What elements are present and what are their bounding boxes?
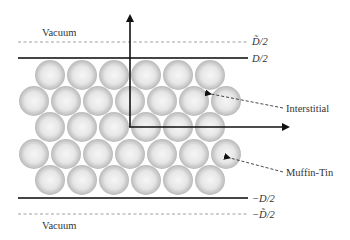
muffin-tin-sphere — [179, 86, 209, 116]
muffin-tin-sphere — [51, 86, 81, 116]
vacuum-label-bottom: Vacuum — [42, 220, 76, 231]
interstitial-label: Interstitial — [286, 103, 329, 114]
muffin-tin-sphere — [99, 165, 129, 195]
muffin-tin-sphere — [163, 60, 193, 90]
d-half-bottom-label: −D/2 — [252, 193, 276, 204]
muffin-tin-sphere — [99, 112, 129, 142]
muffin-tin-sphere — [115, 139, 145, 169]
muffin-tin-sphere — [19, 86, 49, 116]
muffin-tin-sphere — [67, 165, 97, 195]
muffin-tin-sphere — [131, 60, 161, 90]
muffin-tin-sphere — [131, 165, 161, 195]
muffin-tin-sphere — [163, 165, 193, 195]
d-tilde-half-top-label: D̃/2 — [251, 35, 269, 47]
muffin-tin-sphere — [83, 86, 113, 116]
muffin-tin-sphere — [35, 112, 65, 142]
muffin-tin-sphere — [195, 165, 225, 195]
muffin-tin-sphere — [19, 139, 49, 169]
muffin-tin-pointer — [230, 158, 283, 172]
muffin-tin-sphere — [67, 112, 97, 142]
muffin-tin-sphere — [147, 86, 177, 116]
muffin-tin-sphere — [179, 139, 209, 169]
muffin-tin-sphere — [195, 60, 225, 90]
muffin-tin-sphere — [35, 165, 65, 195]
muffin-tin-sphere — [67, 60, 97, 90]
muffin-tin-sphere — [35, 60, 65, 90]
muffin-tin-sphere — [211, 139, 241, 169]
muffin-tin-sphere — [211, 86, 241, 116]
d-half-top-label: D/2 — [251, 53, 269, 64]
muffin-tin-sphere — [83, 139, 113, 169]
d-tilde-half-bottom-label: −D̃/2 — [252, 208, 276, 220]
muffin-tin-sphere — [99, 60, 129, 90]
muffin-tin-sphere — [51, 139, 81, 169]
slab-diagram: Vacuum Vacuum D̃/2 D/2 −D/2 −D̃/2 Inters… — [0, 0, 350, 240]
muffin-tin-label: Muffin-Tin — [286, 167, 334, 178]
muffin-tin-sphere — [147, 139, 177, 169]
vacuum-label-top: Vacuum — [42, 27, 76, 38]
